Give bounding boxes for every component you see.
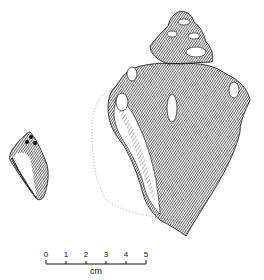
scale-tick-3: 3 <box>104 250 108 259</box>
scale-tick-1: 1 <box>64 250 68 259</box>
shell-figure <box>0 0 264 280</box>
scale-tick-4: 4 <box>124 250 128 259</box>
scale-tick-0: 0 <box>44 250 48 259</box>
small-shell-illustration <box>10 132 49 200</box>
scale-tick-5: 5 <box>144 250 148 259</box>
scale-bar <box>46 260 146 264</box>
large-shell-illustration <box>108 11 250 236</box>
scale-unit: cm <box>90 266 102 276</box>
scale-tick-2: 2 <box>84 250 88 259</box>
